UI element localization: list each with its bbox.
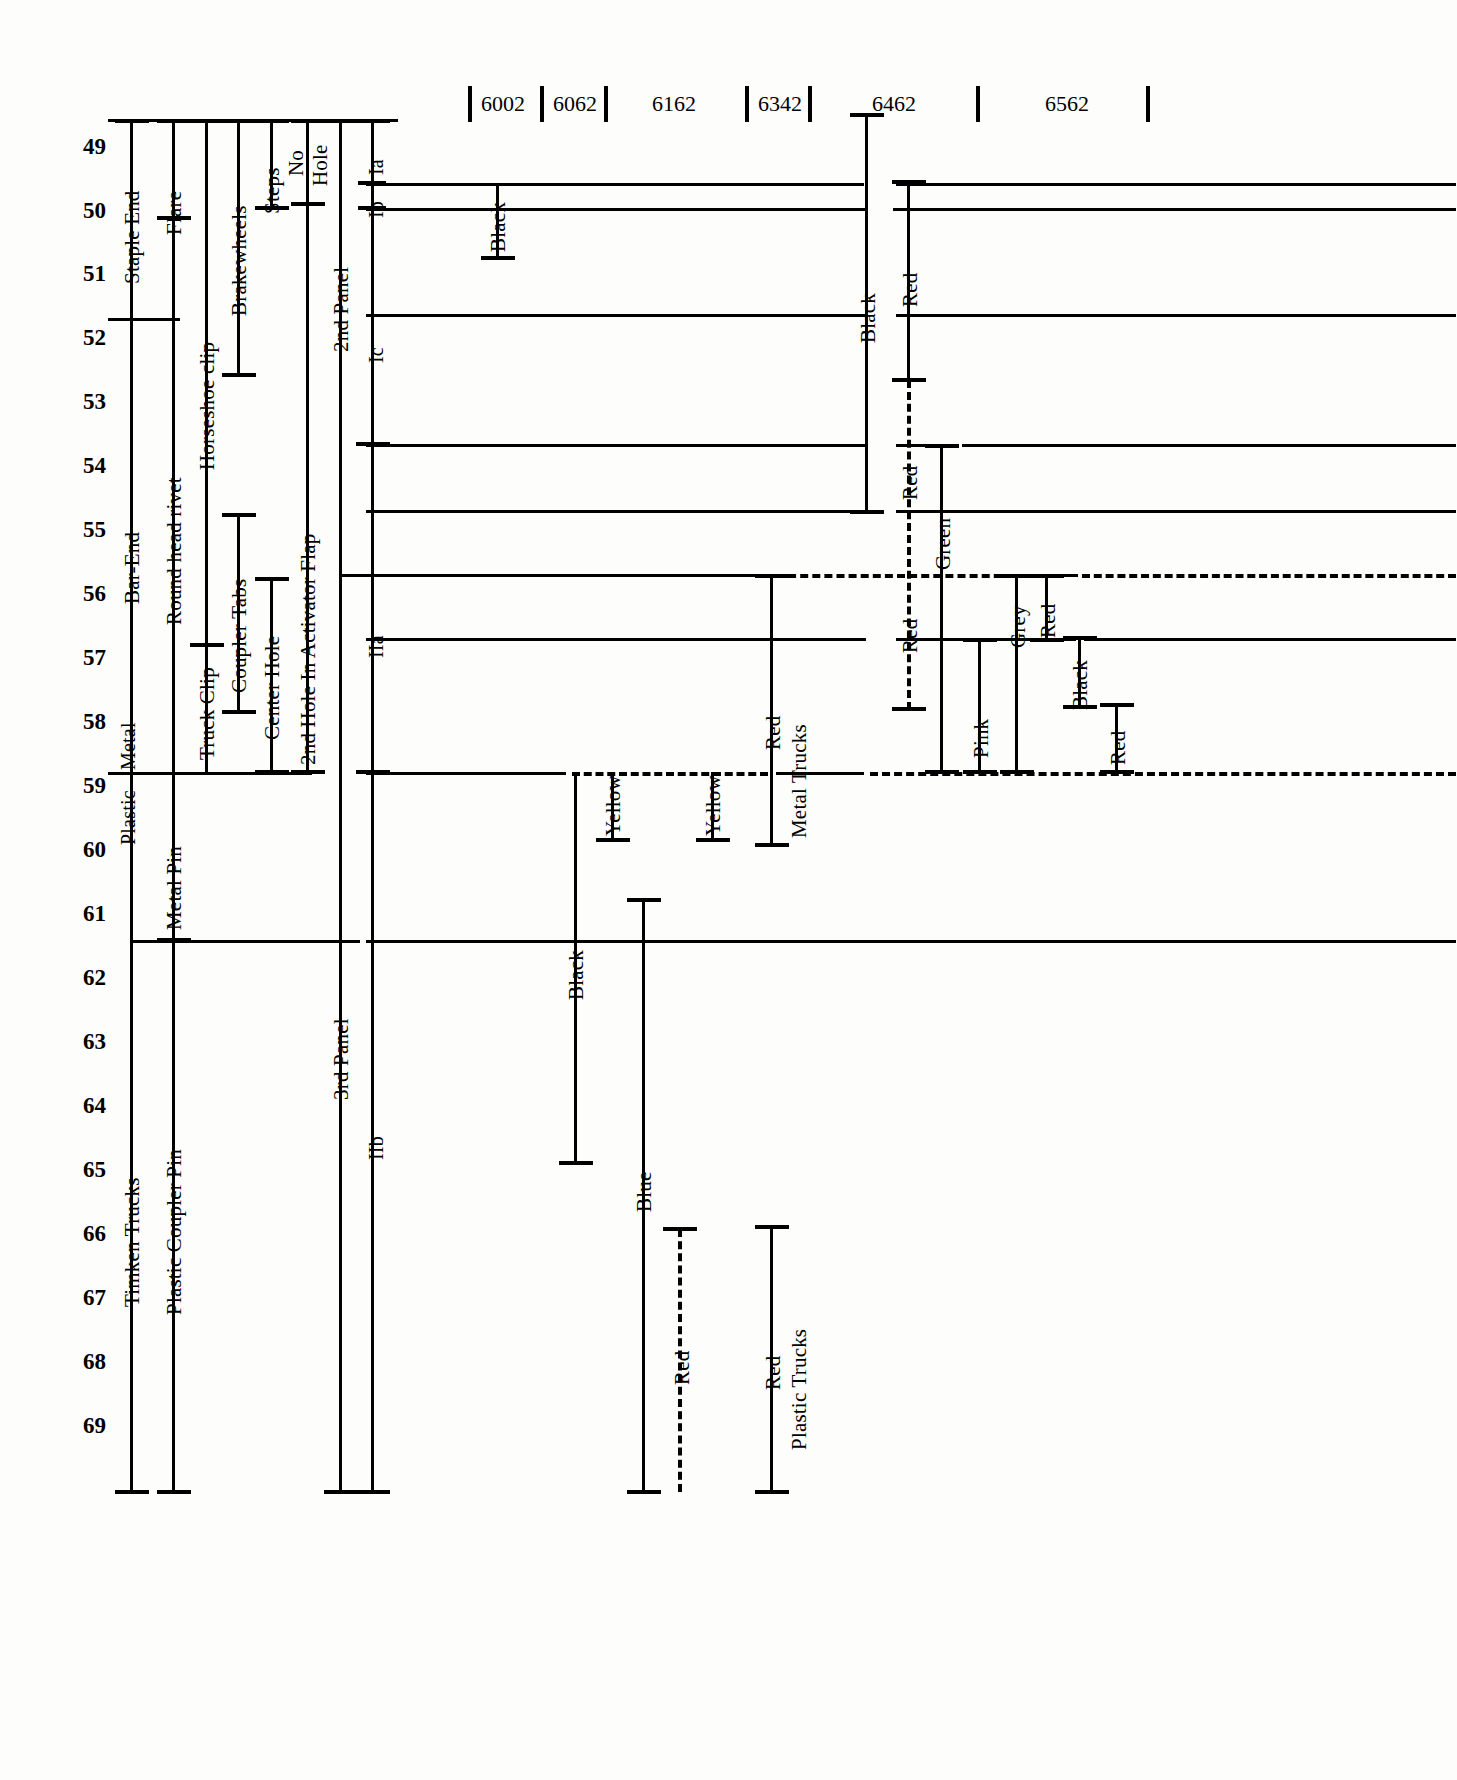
ia-label: Ia xyxy=(366,159,386,175)
era-rule-1956-75 xyxy=(366,638,866,641)
year-tick-66: 66 xyxy=(62,1222,106,1245)
era-rule-1950-2 xyxy=(366,208,866,211)
column-header-6002: 6002 xyxy=(481,93,525,115)
year-tick-65: 65 xyxy=(62,1158,106,1181)
brakewheels-bottom-cap xyxy=(222,373,256,377)
plastic-label: Plastic xyxy=(118,790,138,845)
grey-6562-label: Grey xyxy=(1008,605,1029,648)
third-panel-label: 3rd Panel xyxy=(331,1018,352,1100)
variation-timeline-chart: 6002 6062 6162 6342 6462 6562 49 50 51 5… xyxy=(0,0,1457,1780)
year-tick-60: 60 xyxy=(62,838,106,861)
iib-bottom-cap xyxy=(356,1490,390,1494)
black-6002-bottom-cap xyxy=(481,256,515,260)
column-header-6462: 6462 xyxy=(872,93,916,115)
year-tick-49: 49 xyxy=(62,135,106,158)
red-6462-b-bottom-cap xyxy=(892,707,926,711)
black-6002-label: Black xyxy=(488,202,509,252)
blue-6162-bottom-cap xyxy=(627,1490,661,1494)
era-rule-1955-85-dashed xyxy=(776,574,1026,578)
black-6062-label: Black xyxy=(566,950,587,1000)
black-6462-label: Black xyxy=(858,293,879,343)
column-separator xyxy=(468,86,472,122)
ic-bar xyxy=(371,208,374,444)
era-rule-1955-85-d xyxy=(1082,574,1456,578)
column-separator xyxy=(1146,86,1150,122)
timken-trucks-label: Timken Trucks xyxy=(122,1177,143,1307)
era-rule-1953-75 xyxy=(366,444,866,447)
red-6562-b-bottom-cap xyxy=(1100,770,1134,774)
staple-end-label: Staple End xyxy=(122,190,143,284)
brakewheels-label: Brakewheels xyxy=(229,205,250,316)
year-tick-67: 67 xyxy=(62,1286,106,1309)
metal-pin-label: Metal Pin xyxy=(164,846,185,930)
year-tick-55: 55 xyxy=(62,518,106,541)
red-6462-b-bar xyxy=(907,380,911,710)
black-6062-bottom-cap xyxy=(559,1161,593,1165)
iia-bar xyxy=(371,444,374,772)
red-6562-a-label: Red xyxy=(1038,604,1059,638)
era-rule-1953-75-c xyxy=(962,444,1456,447)
metal-trucks-6342-label: Metal Trucks xyxy=(789,724,810,838)
era-rule-1961-75 xyxy=(366,940,1456,943)
year-tick-51: 51 xyxy=(62,262,106,285)
red-6562-a-bottom-cap xyxy=(1030,638,1064,642)
green-6462-bar xyxy=(940,444,943,774)
year-tick-69: 69 xyxy=(62,1414,106,1437)
red-plastic-6342-bottom-cap xyxy=(755,1490,789,1494)
era-rule-1958-85 xyxy=(366,772,566,775)
year-tick-62: 62 xyxy=(62,966,106,989)
iib-label: IIb xyxy=(366,1136,386,1160)
pink-6562-bottom-cap xyxy=(963,770,997,774)
column-header-6162: 6162 xyxy=(652,93,696,115)
yellow-6162-bottom-cap xyxy=(696,838,730,842)
year-tick-54: 54 xyxy=(62,454,106,477)
year-tick-58: 58 xyxy=(62,710,106,733)
second-panel-label: 2nd Panel xyxy=(331,267,352,352)
year-tick-57: 57 xyxy=(62,646,106,669)
plastic-coupler-pin-label: Plastic Coupler Pin xyxy=(164,1149,185,1315)
year-tick-50: 50 xyxy=(62,199,106,222)
pink-6562-label: Pink xyxy=(971,719,992,758)
column-separator xyxy=(604,86,608,122)
column-header-6062: 6062 xyxy=(553,93,597,115)
bar-end-label: Bar-End xyxy=(122,532,143,604)
era-rule-1951-75-c xyxy=(896,314,1456,317)
era-rule-1951-75-b xyxy=(366,314,866,317)
no-label: No xyxy=(286,150,307,176)
column-header-6342: 6342 xyxy=(758,93,802,115)
column-separator xyxy=(808,86,812,122)
ic-label: Ic xyxy=(366,347,386,363)
red-6462-b-label: Red xyxy=(900,466,921,500)
hole-label: Hole xyxy=(310,144,331,186)
era-rule-1954-7 xyxy=(366,510,866,513)
year-tick-64: 64 xyxy=(62,1094,106,1117)
green-6462-bottom-cap xyxy=(925,770,959,774)
plastic-coupler-pin-cap xyxy=(157,1490,191,1494)
steps-label: Steps xyxy=(262,167,283,214)
column-separator xyxy=(976,86,980,122)
column-separator xyxy=(540,86,544,122)
second-hole-flap-label: 2nd Hole In Activator Flap xyxy=(298,534,319,766)
year-tick-63: 63 xyxy=(62,1030,106,1053)
red-metal-6342-bottom-cap xyxy=(755,843,789,847)
grey-6562-bar xyxy=(1015,574,1018,774)
yellow-6062-bottom-cap xyxy=(596,838,630,842)
era-rule-1954-7-b xyxy=(896,510,1456,513)
red-6342-label: Red xyxy=(763,716,784,750)
year-tick-53: 53 xyxy=(62,390,106,413)
blue-6162-label: Blue xyxy=(634,1172,655,1212)
metal-label: Metal xyxy=(118,722,138,770)
yellow-6162-label: Yellow xyxy=(703,775,724,836)
coupler-tabs-bottom-cap xyxy=(222,710,256,714)
era-rule-1950-2-b xyxy=(893,208,1456,211)
column-header-6562: 6562 xyxy=(1045,93,1089,115)
ib-label: Ib xyxy=(366,201,386,218)
coupler-tabs-label: Coupler Tabs xyxy=(229,579,250,693)
era-rule-1949-8 xyxy=(366,183,864,186)
red-metal-6342-bar xyxy=(770,574,773,846)
center-hole-label: Center Hole xyxy=(262,636,283,740)
era-rule-1951-75 xyxy=(108,318,180,321)
second-panel-bar xyxy=(339,119,342,940)
bar-end-bottom-cap xyxy=(115,1490,149,1494)
plastic-trucks-6342-label: Plastic Trucks xyxy=(789,1329,810,1450)
